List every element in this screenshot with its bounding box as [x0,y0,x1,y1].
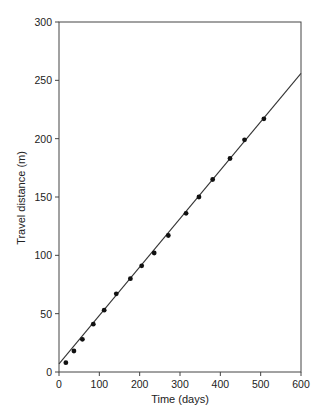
data-point [184,211,189,216]
y-tick-label: 50 [40,308,52,320]
data-point [242,137,247,142]
x-tick-label: 500 [252,378,270,390]
data-point [261,116,266,121]
x-tick-label: 0 [56,378,62,390]
data-point [102,308,107,313]
data-point [197,195,202,200]
data-point [210,177,215,182]
data-point [63,360,68,365]
plot-area [59,73,301,365]
data-point [128,276,133,281]
x-tick-label: 300 [171,378,189,390]
data-point [166,233,171,238]
axes: 0100200300400500600050100150200250300 [34,16,309,390]
y-tick-label: 200 [34,133,52,145]
x-axis-title: Time (days) [151,393,209,405]
chart: 0100200300400500600050100150200250300 Ti… [0,0,323,419]
data-point [152,251,157,256]
x-tick-label: 600 [292,378,310,390]
x-tick-label: 400 [212,378,230,390]
data-point [91,322,96,327]
y-tick-label: 0 [46,366,52,378]
data-point [80,337,85,342]
x-tick-label: 200 [131,378,149,390]
data-point [139,263,144,268]
y-tick-label: 150 [34,191,52,203]
data-point [228,156,233,161]
data-point [114,291,119,296]
x-tick-label: 100 [91,378,109,390]
y-tick-label: 250 [34,74,52,86]
y-tick-label: 100 [34,249,52,261]
y-axis-title: Travel distance (m) [15,151,27,245]
y-tick-label: 300 [34,16,52,28]
data-point [72,349,77,354]
